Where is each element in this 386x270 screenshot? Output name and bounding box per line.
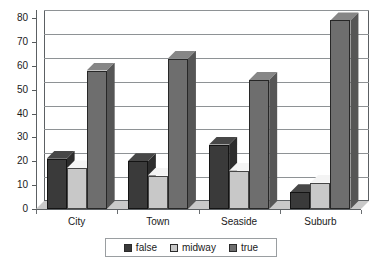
x-axis-tick-mark (199, 210, 200, 214)
bar-town-true (168, 51, 196, 209)
bar-front-face (128, 161, 148, 209)
y-axis-tick-label: 10 (6, 180, 28, 190)
legend-label: false (136, 243, 157, 253)
y-axis-tick-label: 80 (6, 13, 28, 23)
gridline (44, 34, 369, 35)
bar-seaside-true (249, 72, 277, 209)
bar-side-face (350, 12, 359, 209)
y-axis-tick-label: 30 (6, 132, 28, 142)
x-axis-category-label: Town (117, 216, 198, 227)
legend-swatch-false (124, 244, 132, 252)
gridline (44, 10, 369, 11)
legend-item-false: false (124, 243, 157, 253)
legend-label: midway (182, 243, 216, 253)
bar-city-true (87, 63, 115, 209)
y-axis-tick-label: 20 (6, 156, 28, 166)
bar-side-face (188, 51, 197, 209)
chart-legend: falsemidwaytrue (105, 238, 277, 257)
legend-swatch-midway (170, 244, 178, 252)
bar-side-face (269, 72, 278, 209)
y-axis-tick-label: 40 (6, 109, 28, 119)
axis-wall-left (36, 10, 44, 209)
bar-side-face (107, 63, 116, 209)
x-axis-category-label: Seaside (199, 216, 280, 227)
bar-chart: 01020304050607080 CityTownSeasideSuburb … (0, 0, 386, 270)
y-axis-tick-label: 70 (6, 37, 28, 47)
x-axis-category-label: City (36, 216, 117, 227)
x-axis-category-label: Suburb (280, 216, 361, 227)
x-axis-tick-mark (280, 210, 281, 214)
y-axis-tick-label: 60 (6, 61, 28, 71)
bar-front-face (229, 171, 249, 209)
y-axis-tick-label: 50 (6, 85, 28, 95)
bar-front-face (310, 183, 330, 209)
x-axis-tick-mark (117, 210, 118, 214)
bar-front-face (168, 59, 188, 209)
bar-front-face (290, 192, 310, 209)
legend-item-midway: midway (170, 243, 216, 253)
x-axis-tick-mark (36, 210, 37, 214)
y-axis-tick-label: 0 (6, 204, 28, 214)
bar-front-face (209, 145, 229, 209)
bar-suburb-true (330, 12, 358, 209)
bar-front-face (87, 71, 107, 209)
legend-label: true (241, 243, 258, 253)
bar-front-face (67, 168, 87, 209)
legend-swatch-true (229, 244, 237, 252)
gridline (44, 58, 369, 59)
bar-front-face (249, 80, 269, 209)
legend-item-true: true (229, 243, 258, 253)
bar-front-face (47, 159, 67, 209)
bar-front-face (148, 176, 168, 209)
bar-front-face (330, 20, 350, 209)
x-axis-tick-mark (361, 210, 362, 214)
